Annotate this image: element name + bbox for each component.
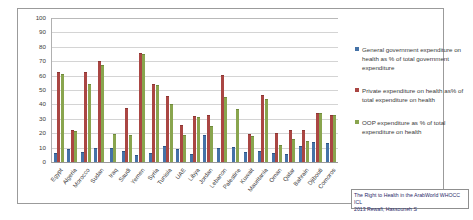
- bar: [142, 54, 145, 162]
- bar-group: [52, 18, 66, 162]
- y-axis-tick-label: 60: [39, 73, 46, 79]
- bar: [101, 65, 104, 162]
- chart-legend: General government expenditure on health…: [355, 45, 473, 150]
- bar: [129, 135, 132, 162]
- y-axis-tick-label: 10: [39, 145, 46, 151]
- x-axis-label-slot: Iraq: [107, 165, 121, 205]
- x-axis-label-slot: UAE: [175, 165, 189, 205]
- bar: [251, 136, 254, 162]
- x-axis-label-slot: Mauritania: [257, 165, 271, 205]
- bars-layer: [52, 18, 338, 162]
- y-axis: 1009080706050403020100: [18, 18, 49, 163]
- legend-label: Private expenditure on health as% of tot…: [362, 86, 473, 104]
- bar: [306, 141, 309, 162]
- y-axis-tick-label: 50: [39, 87, 46, 93]
- caption-text: The Right to Health in the ArabWorld WHO…: [354, 192, 466, 213]
- bar: [279, 145, 282, 162]
- bar: [224, 97, 227, 162]
- y-axis-tick-label: 20: [39, 130, 46, 136]
- bar-group: [175, 18, 189, 162]
- bar: [292, 139, 295, 162]
- x-axis-label-slot: Saudi: [120, 165, 134, 205]
- y-axis-tick-label: 70: [39, 58, 46, 64]
- bar: [113, 134, 116, 162]
- bar: [88, 84, 91, 162]
- legend-swatch-icon: [355, 120, 359, 124]
- x-axis-label-slot: Comoros: [325, 165, 339, 205]
- bar-group: [66, 18, 80, 162]
- bar: [265, 99, 268, 162]
- bar-group: [147, 18, 161, 162]
- y-axis-tick-label: 0: [43, 159, 46, 165]
- y-axis-tick-label: 100: [36, 15, 46, 21]
- legend-item-private: Private expenditure on health as% of tot…: [355, 86, 473, 104]
- bar-group: [284, 18, 298, 162]
- y-axis-tick-label: 80: [39, 44, 46, 50]
- x-axis-label-slot: Libya: [189, 165, 203, 205]
- legend-swatch-icon: [355, 47, 359, 51]
- bar: [170, 104, 173, 162]
- caption-box: The Right to Health in the ArabWorld WHO…: [351, 189, 469, 209]
- x-axis-label-slot: Morocco: [79, 165, 93, 205]
- bar-group: [297, 18, 311, 162]
- legend-label: General government expenditure on health…: [362, 45, 473, 72]
- legend-swatch-icon: [355, 88, 359, 92]
- y-axis-tick-label: 90: [39, 29, 46, 35]
- plot-area: [51, 18, 338, 163]
- x-axis-label-slot: Tunisia: [161, 165, 175, 205]
- bar-group: [243, 18, 257, 162]
- legend-item-oop: OOP expenditure as % of total expenditur…: [355, 118, 473, 136]
- bar-group: [202, 18, 216, 162]
- y-axis-tick-label: 30: [39, 116, 46, 122]
- x-axis-labels: EgyptAlgeriaMoroccoSudanIraqSaudiYemenSy…: [52, 165, 339, 205]
- bar-group: [311, 18, 325, 162]
- bar: [236, 109, 239, 162]
- bar-group: [270, 18, 284, 162]
- bar: [74, 131, 77, 162]
- chart-container: 1009080706050403020100 EgyptAlgeriaMoroc…: [17, 8, 444, 204]
- bar: [197, 117, 200, 162]
- caption-line-1: The Right to Health in the ArabWorld WHO…: [354, 192, 460, 205]
- x-axis-label-slot: Sudan: [93, 165, 107, 205]
- legend-item-government: General government expenditure on health…: [355, 45, 473, 72]
- y-axis-tick-label: 40: [39, 101, 46, 107]
- bar-group: [188, 18, 202, 162]
- legend-label: OOP expenditure as % of total expenditur…: [362, 118, 473, 136]
- bar-group: [134, 18, 148, 162]
- bar-group: [79, 18, 93, 162]
- x-axis-label-slot: Yemen: [134, 165, 148, 205]
- bar: [156, 85, 159, 162]
- x-axis-label-slot: Oman: [271, 165, 285, 205]
- bar: [61, 74, 64, 162]
- caption-line-2: 2013 Rewafi, Hassouneh S: [354, 206, 417, 212]
- bar-group: [256, 18, 270, 162]
- bar-group: [93, 18, 107, 162]
- bar: [333, 115, 336, 162]
- x-axis-label-slot: Palestine: [230, 165, 244, 205]
- x-axis-tick-label: Oman: [268, 167, 284, 184]
- bar: [210, 126, 213, 162]
- bar-group: [229, 18, 243, 162]
- bar-group: [107, 18, 121, 162]
- bar: [319, 113, 322, 162]
- bar-group: [120, 18, 134, 162]
- bar: [183, 135, 186, 162]
- bar-group: [216, 18, 230, 162]
- bar-group: [161, 18, 175, 162]
- x-axis-tick-label: UAE: [174, 167, 187, 181]
- bar-group: [325, 18, 339, 162]
- x-axis-label-slot: Egypt: [52, 165, 66, 205]
